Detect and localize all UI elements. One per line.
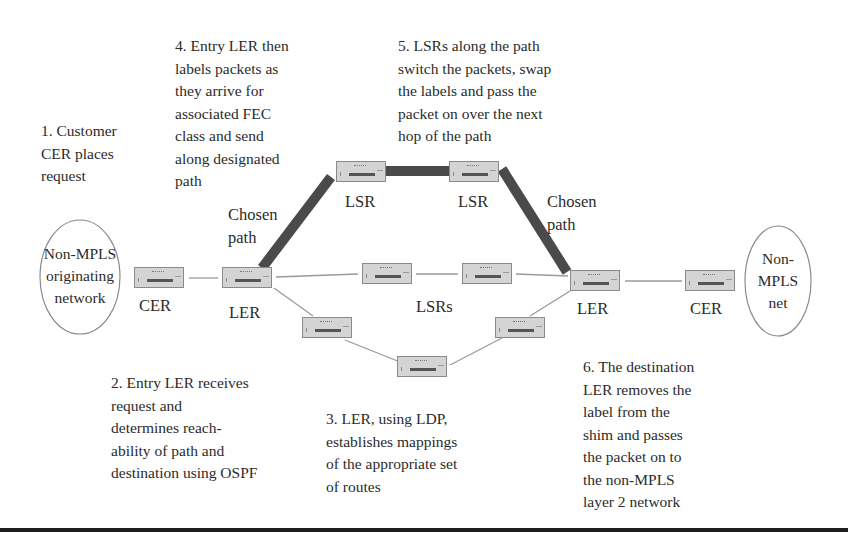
destination-network-label: Non- MPLS net: [748, 248, 808, 314]
lsr-top-left-label: LSR: [345, 192, 375, 212]
step-2-text: 2. Entry LER receives request and determ…: [111, 372, 257, 485]
link-ler-lsr-mid-left: [276, 274, 358, 277]
cer-right-label: CER: [690, 299, 722, 319]
chosen-path-right-label: Chosen path: [547, 190, 597, 236]
router-lsr-low-left-icon: [302, 317, 352, 338]
lsrs-middle-label: LSRs: [416, 297, 453, 317]
router-cer-right-icon: [685, 270, 735, 291]
router-lsr-mid-right-icon: [462, 263, 512, 284]
router-lsr-low-right-icon: [495, 317, 545, 338]
cer-left-label: CER: [139, 296, 171, 316]
router-cer-left-icon: [134, 267, 184, 288]
lsr-top-right-label: LSR: [458, 192, 488, 212]
chosen-path-left-label: Chosen path: [228, 203, 278, 249]
router-ler-right-icon: [570, 270, 620, 291]
link-lsr-mid-right-ler: [516, 274, 568, 276]
link-lsr-low-left-mid: [345, 340, 400, 362]
step-5-text: 5. LSRs along the path switch the packet…: [398, 35, 551, 148]
link-lsr-low-right-ler: [530, 291, 570, 316]
ler-left-label: LER: [229, 303, 260, 323]
link-lsr-low-mid-right: [450, 338, 502, 365]
ler-right-label: LER: [577, 299, 608, 319]
step-6-text: 6. The destination LER removes the label…: [583, 356, 694, 514]
router-ler-left-icon: [222, 267, 272, 288]
bottom-rule: [0, 528, 848, 532]
step-1-text: 1. Customer CER places request: [41, 120, 117, 188]
router-lsr-mid-left-icon: [362, 263, 412, 284]
origin-network-label: Non-MPLS originating network: [38, 243, 122, 309]
router-lsr-top-right-icon: [449, 161, 499, 182]
link-ler-lsr-low-left: [274, 288, 313, 316]
step-3-text: 3. LER, using LDP, establishes mappings …: [326, 408, 457, 498]
mpls-diagram: Non-MPLS originating network Non- MPLS n…: [0, 0, 848, 544]
router-lsr-top-left-icon: [336, 161, 386, 182]
router-lsr-low-mid-icon: [397, 356, 447, 377]
step-4-text: 4. Entry LER then labels packets as they…: [175, 35, 289, 193]
